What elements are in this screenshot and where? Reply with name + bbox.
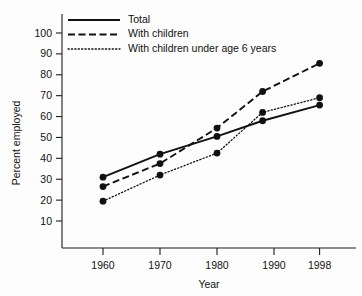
y-tick-label: 30 xyxy=(40,173,52,185)
legend-label: With children under age 6 years xyxy=(128,42,276,54)
data-point-marker xyxy=(214,125,221,132)
y-tick-label: 20 xyxy=(40,194,52,206)
data-point-marker xyxy=(316,94,323,101)
legend-label: With children xyxy=(128,27,189,39)
data-point-marker xyxy=(100,183,107,190)
data-point-marker xyxy=(157,172,164,179)
y-tick-label: 50 xyxy=(40,131,52,143)
data-point-marker xyxy=(100,198,107,205)
x-tick-label: 1998 xyxy=(308,259,332,271)
y-tick-label: 100 xyxy=(34,27,52,39)
x-axis-ticks: 19601970198019901998 xyxy=(91,248,331,271)
data-point-marker xyxy=(259,88,266,95)
data-point-marker xyxy=(259,117,266,124)
y-axis-title: Percent employed xyxy=(10,101,22,186)
series-line xyxy=(103,63,320,186)
x-axis-title: Year xyxy=(198,278,220,290)
legend-label: Total xyxy=(128,13,150,25)
data-point-marker xyxy=(316,60,323,67)
x-tick-label: 1970 xyxy=(148,259,172,271)
chart-container: 102030405060708090100 196019701980199019… xyxy=(0,0,362,296)
y-tick-label: 40 xyxy=(40,152,52,164)
y-axis-ticks: 102030405060708090100 xyxy=(34,27,62,227)
y-tick-label: 80 xyxy=(40,68,52,80)
data-point-marker xyxy=(214,150,221,157)
y-tick-label: 70 xyxy=(40,89,52,101)
series-layer xyxy=(103,63,320,201)
x-tick-label: 1980 xyxy=(205,259,229,271)
data-point-marker xyxy=(157,160,164,167)
x-tick-label: 1990 xyxy=(262,259,286,271)
legend: TotalWith childrenWith children under ag… xyxy=(68,13,276,54)
data-point-marker xyxy=(214,133,221,140)
y-tick-label: 90 xyxy=(40,47,52,59)
y-tick-label: 60 xyxy=(40,110,52,122)
line-chart: 102030405060708090100 196019701980199019… xyxy=(0,0,362,296)
data-point-marker xyxy=(259,109,266,116)
x-tick-label: 1960 xyxy=(91,259,115,271)
series-line xyxy=(103,105,320,177)
data-point-marker xyxy=(316,102,323,109)
data-point-marker xyxy=(100,174,107,181)
data-point-marker xyxy=(157,151,164,158)
y-tick-label: 10 xyxy=(40,215,52,227)
